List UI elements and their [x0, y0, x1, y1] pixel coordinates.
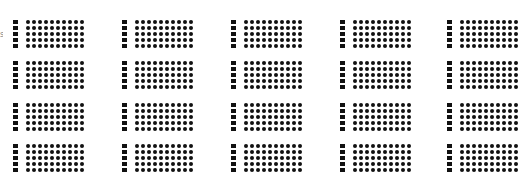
- pattern-cell: [231, 144, 331, 174]
- square-marker: [447, 156, 452, 160]
- dot: [383, 115, 387, 119]
- dot: [32, 103, 36, 107]
- dot: [256, 103, 260, 107]
- dot: [32, 26, 36, 30]
- dot: [395, 103, 399, 107]
- dot: [377, 127, 381, 131]
- dot: [472, 79, 476, 83]
- dot: [359, 156, 363, 160]
- dot: [280, 32, 284, 36]
- dot: [262, 121, 266, 125]
- dot: [62, 115, 66, 119]
- pattern-cell: [447, 20, 530, 50]
- dot: [165, 144, 169, 148]
- dot: [472, 168, 476, 172]
- dot: [407, 38, 411, 42]
- dot: [274, 44, 278, 48]
- square-marker: [122, 79, 127, 83]
- dot: [165, 162, 169, 166]
- dot: [44, 115, 48, 119]
- square-marker: [340, 150, 345, 154]
- dot: [153, 109, 157, 113]
- dot: [292, 38, 296, 42]
- dot: [490, 20, 494, 24]
- dot: [286, 20, 290, 24]
- dot: [153, 121, 157, 125]
- dot: [389, 127, 393, 131]
- dot: [135, 115, 139, 119]
- square-marker-column: [340, 144, 345, 174]
- dot: [359, 32, 363, 36]
- dot: [280, 156, 284, 160]
- dot-matrix: [26, 103, 84, 131]
- dot: [32, 150, 36, 154]
- dot: [460, 85, 464, 89]
- dot: [62, 67, 66, 71]
- square-marker-column: [231, 61, 236, 91]
- dot-matrix: [244, 61, 302, 89]
- dot: [383, 162, 387, 166]
- dot: [256, 162, 260, 166]
- dot: [268, 156, 272, 160]
- dot: [62, 168, 66, 172]
- dot: [274, 26, 278, 30]
- dot: [177, 144, 181, 148]
- dot: [514, 127, 518, 131]
- dot: [280, 150, 284, 154]
- dot: [32, 115, 36, 119]
- dot: [502, 156, 506, 160]
- dot: [268, 61, 272, 65]
- dot: [460, 26, 464, 30]
- dot: [514, 162, 518, 166]
- dot: [159, 109, 163, 113]
- dot: [171, 162, 175, 166]
- dot: [183, 103, 187, 107]
- dot: [353, 144, 357, 148]
- dot: [490, 38, 494, 42]
- dot: [141, 79, 145, 83]
- dot: [407, 44, 411, 48]
- dot: [472, 109, 476, 113]
- dot: [286, 144, 290, 148]
- dot: [383, 67, 387, 71]
- square-marker: [447, 32, 452, 36]
- dot: [359, 168, 363, 172]
- square-marker: [231, 85, 236, 89]
- dot: [484, 109, 488, 113]
- dot: [274, 156, 278, 160]
- square-marker: [231, 79, 236, 83]
- dot: [298, 121, 302, 125]
- dot: [32, 85, 36, 89]
- dot: [250, 32, 254, 36]
- dot: [478, 26, 482, 30]
- dot: [153, 162, 157, 166]
- dot: [68, 156, 72, 160]
- dot: [484, 144, 488, 148]
- dot: [508, 38, 512, 42]
- dot: [80, 115, 84, 119]
- dot: [171, 26, 175, 30]
- dot: [68, 150, 72, 154]
- dot: [153, 20, 157, 24]
- dot: [159, 115, 163, 119]
- dot: [508, 61, 512, 65]
- square-marker: [13, 168, 18, 172]
- dot: [286, 162, 290, 166]
- dot: [26, 127, 30, 131]
- dot: [183, 32, 187, 36]
- dot: [165, 127, 169, 131]
- dot: [256, 168, 260, 172]
- dot: [359, 73, 363, 77]
- dot: [62, 156, 66, 160]
- dot: [478, 44, 482, 48]
- dot: [147, 44, 151, 48]
- square-marker: [340, 127, 345, 131]
- dot: [274, 162, 278, 166]
- dot: [80, 127, 84, 131]
- dot: [371, 38, 375, 42]
- dot: [292, 44, 296, 48]
- dot: [298, 44, 302, 48]
- dot: [147, 73, 151, 77]
- dot: [383, 127, 387, 131]
- dot: [250, 156, 254, 160]
